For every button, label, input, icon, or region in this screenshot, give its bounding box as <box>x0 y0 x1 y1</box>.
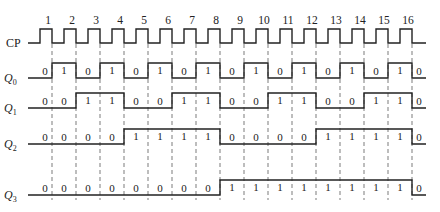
state-value: 1 <box>205 94 211 106</box>
timing-diagram: CP12345678910111213141516 Q0010101010101… <box>0 0 440 212</box>
state-value: 0 <box>416 131 422 143</box>
state-value: 0 <box>181 182 187 194</box>
state-value: 1 <box>253 64 259 76</box>
state-value: 1 <box>397 94 403 106</box>
state-value: 0 <box>325 65 331 77</box>
output-signals: Q001010101010101010Q100110011001100110Q2… <box>4 63 426 204</box>
state-value: 1 <box>109 64 115 76</box>
state-value: 1 <box>349 181 355 193</box>
state-value: 1 <box>61 64 67 76</box>
state-value: 0 <box>42 95 48 107</box>
pulse-number: 6 <box>165 14 171 26</box>
state-value: 0 <box>157 95 163 107</box>
state-value: 0 <box>325 95 331 107</box>
clock-signal-cp: CP12345678910111213141516 <box>6 14 426 50</box>
state-value: 0 <box>61 182 67 194</box>
pulse-number: 3 <box>93 14 99 26</box>
pulse-number: 10 <box>258 14 270 26</box>
state-value: 0 <box>229 65 235 77</box>
state-value: 1 <box>325 130 331 142</box>
state-value: 0 <box>416 95 422 107</box>
state-value: 0 <box>416 182 422 194</box>
pulse-number: 14 <box>354 14 366 26</box>
state-value: 1 <box>157 64 163 76</box>
signal-q0: Q001010101010101010 <box>4 63 426 87</box>
state-value: 0 <box>85 131 91 143</box>
state-value: 1 <box>349 130 355 142</box>
state-value: 0 <box>277 131 283 143</box>
pulse-number: 12 <box>306 14 318 26</box>
state-value: 0 <box>42 182 48 194</box>
state-value: 1 <box>109 94 115 106</box>
signal-label: Q0 <box>4 71 17 87</box>
signal-label: Q1 <box>4 101 17 117</box>
pulse-number: 2 <box>69 14 75 26</box>
state-value: 0 <box>373 65 379 77</box>
state-value: 0 <box>229 95 235 107</box>
state-value: 0 <box>349 95 355 107</box>
state-value: 0 <box>277 65 283 77</box>
state-value: 1 <box>277 94 283 106</box>
state-value: 0 <box>133 182 139 194</box>
state-value: 0 <box>133 95 139 107</box>
state-value: 0 <box>85 182 91 194</box>
state-value: 1 <box>277 181 283 193</box>
state-value: 0 <box>61 131 67 143</box>
state-value: 0 <box>253 95 259 107</box>
state-value: 0 <box>181 65 187 77</box>
signal-q2: Q200001111000011110 <box>4 129 426 153</box>
signal-q1: Q100110011001100110 <box>4 93 426 117</box>
pulse-number: 16 <box>402 14 414 26</box>
state-value: 1 <box>85 94 91 106</box>
state-value: 1 <box>253 181 259 193</box>
state-value: 1 <box>325 181 331 193</box>
state-value: 0 <box>42 131 48 143</box>
pulse-number: 15 <box>378 14 390 26</box>
state-value: 0 <box>253 131 259 143</box>
state-value: 0 <box>85 65 91 77</box>
pulse-number: 4 <box>117 14 123 26</box>
pulse-number: 9 <box>237 14 243 26</box>
state-value: 1 <box>229 181 235 193</box>
state-value: 1 <box>349 64 355 76</box>
state-value: 1 <box>397 130 403 142</box>
signal-q3: Q300000000111111110 <box>4 180 426 204</box>
state-value: 1 <box>205 130 211 142</box>
state-value: 1 <box>301 181 307 193</box>
state-value: 0 <box>229 131 235 143</box>
clock-label: CP <box>6 36 21 50</box>
state-value: 1 <box>133 130 139 142</box>
state-value: 1 <box>397 181 403 193</box>
state-value: 1 <box>373 94 379 106</box>
state-value: 1 <box>301 64 307 76</box>
state-value: 1 <box>157 130 163 142</box>
pulse-number: 1 <box>45 14 51 26</box>
state-value: 1 <box>205 64 211 76</box>
clock-waveform <box>28 29 426 43</box>
pulse-number: 13 <box>330 14 342 26</box>
signal-label: Q2 <box>4 137 17 153</box>
signal-label: Q3 <box>4 188 17 204</box>
state-value: 0 <box>42 65 48 77</box>
state-value: 1 <box>181 130 187 142</box>
state-value: 1 <box>301 94 307 106</box>
pulse-number: 11 <box>282 14 293 26</box>
state-value: 0 <box>133 65 139 77</box>
state-value: 0 <box>416 65 422 77</box>
state-value: 1 <box>373 130 379 142</box>
state-value: 0 <box>301 131 307 143</box>
state-value: 0 <box>61 95 67 107</box>
pulse-number: 8 <box>213 14 219 26</box>
pulse-number: 7 <box>189 14 195 26</box>
state-value: 1 <box>373 181 379 193</box>
state-value: 0 <box>157 182 163 194</box>
state-value: 0 <box>109 182 115 194</box>
state-value: 1 <box>181 94 187 106</box>
state-value: 1 <box>397 64 403 76</box>
state-value: 0 <box>205 182 211 194</box>
pulse-number: 5 <box>141 14 147 26</box>
state-value: 0 <box>109 131 115 143</box>
